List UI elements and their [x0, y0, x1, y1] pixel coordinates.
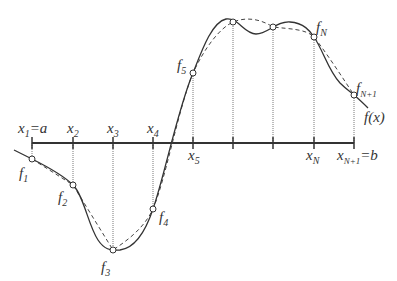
f-label: f1	[19, 165, 28, 184]
node-point	[230, 19, 236, 25]
node-point	[190, 70, 196, 76]
piecewise-interpolation-diagram: x1=ax2x3x4x5xNxN+1=b f1f2f3f4f5fNfN+1 f(…	[0, 0, 397, 281]
x-label: xN	[305, 147, 321, 166]
x-label: x5	[187, 147, 200, 166]
vertical-guide-lines	[32, 22, 354, 250]
f-label: f4	[159, 209, 168, 228]
x-label: xN+1=b	[336, 147, 378, 166]
f-label: f2	[58, 189, 67, 208]
f-label: fN+1	[356, 80, 377, 99]
f-label: fN	[316, 19, 328, 38]
node-point	[270, 24, 276, 30]
x-label: x2	[66, 120, 79, 139]
f-label: f5	[177, 57, 186, 76]
x-label: x4	[146, 120, 159, 139]
node-point	[110, 247, 116, 253]
node-point	[29, 156, 35, 162]
function-label: f(x)	[364, 109, 385, 126]
x-label: x1=a	[17, 120, 47, 139]
node-point	[150, 206, 156, 212]
x-label: x3	[106, 120, 119, 139]
node-point	[70, 182, 76, 188]
f-label: f3	[101, 259, 110, 278]
